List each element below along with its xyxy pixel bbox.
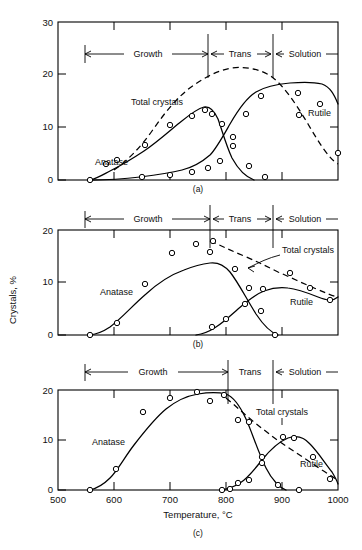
panel-a-ytick-10: 10 (42, 121, 53, 132)
panel-a-label-anatase: Anatase (95, 157, 128, 167)
panel-b-region-growth: Growth (133, 214, 162, 224)
panel-a-region-solution: Solution (289, 49, 322, 59)
panel-b-region-solution: Solution (289, 214, 322, 224)
panel-a-ytick-20: 20 (42, 68, 53, 79)
panel-a-region-growth: Growth (133, 49, 162, 59)
panel-b-caption: (b) (193, 339, 204, 349)
multi-panel-chart: Crystals, % 0 10 20 30 (0, 0, 362, 550)
panel-b-ytick-20: 20 (42, 225, 53, 236)
panel-c-ytick-10: 10 (42, 434, 53, 445)
panel-c-ytick-20: 20 (42, 385, 53, 396)
xtick-1000: 1000 (327, 494, 348, 505)
panel-b-markers-rutile (209, 270, 332, 329)
panel-c-region-solution: Solution (289, 367, 322, 377)
panel-b-total-crystals-arrowhead (248, 266, 255, 272)
panel-a: 0 10 20 30 (42, 17, 340, 194)
panel-c-region-annotations: Growth Trans Solution (85, 360, 338, 404)
panel-c-y-ticks (58, 440, 338, 490)
panel-a-label-rutile: Rutile (308, 108, 331, 118)
panel-b-label-total-crystals: Total crystals (282, 245, 335, 255)
xtick-500: 500 (50, 494, 66, 505)
panel-a-region-annotations: Growth Trans Solution (85, 34, 338, 78)
panel-c: 0 10 20 500 600 700 800 900 1000 (42, 360, 348, 538)
xtick-700: 700 (162, 494, 178, 505)
panel-b-ytick-10: 10 (42, 276, 53, 287)
xtick-800: 800 (218, 494, 234, 505)
panel-c-label-rutile: Rutile (300, 459, 323, 469)
panel-a-caption: (a) (193, 184, 204, 194)
y-axis-title: Crystals, % (7, 275, 18, 324)
xtick-600: 600 (106, 494, 122, 505)
panel-a-curve-anatase (90, 107, 254, 180)
panel-b-region-trans: Trans (229, 214, 252, 224)
panel-b: 0 10 20 Growth (42, 205, 338, 349)
x-axis-title: Temperature, °C (163, 509, 232, 520)
panel-a-region-trans: Trans (229, 49, 252, 59)
panel-c-region-trans: Trans (239, 367, 262, 377)
xtick-900: 900 (274, 494, 290, 505)
panel-b-label-rutile: Rutile (290, 297, 313, 307)
panel-a-label-total-crystals: Total crystals (131, 97, 184, 107)
panel-b-label-anatase: Anatase (100, 287, 133, 297)
panel-b-ytick-0: 0 (48, 329, 53, 340)
panel-c-x-ticks (114, 390, 282, 490)
panel-b-total-crystals-leader (248, 255, 280, 268)
figure-container: Crystals, % 0 10 20 30 (0, 0, 362, 550)
panel-c-region-growth: Growth (138, 367, 167, 377)
panel-a-ytick-30: 30 (42, 17, 53, 28)
panel-c-label-anatase: Anatase (92, 437, 125, 447)
y-axis-title-text: Crystals, % (7, 275, 18, 324)
panel-c-caption: (c) (193, 528, 203, 538)
panel-a-ytick-0: 0 (48, 174, 53, 185)
panel-c-label-total-crystals: Total crystals (256, 407, 309, 417)
